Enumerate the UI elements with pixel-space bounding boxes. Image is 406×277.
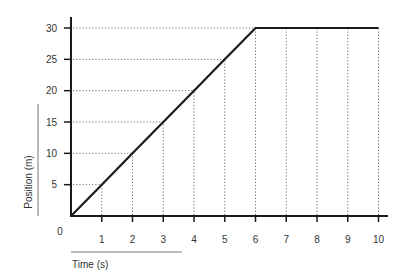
position-time-chart: 12345678910 51015202530 0 Position (m) T… <box>0 0 406 277</box>
y-tick-label-20: 20 <box>46 85 58 96</box>
y-axis-ticks: 51015202530 <box>46 23 71 191</box>
x-tick-label-6: 6 <box>253 234 259 245</box>
x-tick-label-7: 7 <box>283 234 289 245</box>
x-tick-label-10: 10 <box>373 234 385 245</box>
x-tick-label-4: 4 <box>191 234 197 245</box>
y-tick-label-15: 15 <box>46 117 58 128</box>
y-tick-label-25: 25 <box>46 54 58 65</box>
y-tick-label-10: 10 <box>46 148 58 159</box>
axes <box>70 17 388 217</box>
x-tick-label-8: 8 <box>314 234 320 245</box>
x-tick-label-5: 5 <box>222 234 228 245</box>
x-axis-title: Time (s) <box>72 259 108 270</box>
x-tick-label-3: 3 <box>160 234 166 245</box>
y-tick-label-5: 5 <box>51 179 57 190</box>
x-tick-label-1: 1 <box>99 234 105 245</box>
y-tick-label-30: 30 <box>46 23 58 34</box>
y-axis-title: Position (m) <box>23 155 34 208</box>
dotted-guide-lines <box>73 28 379 215</box>
origin-label: 0 <box>57 226 63 237</box>
x-tick-label-2: 2 <box>130 234 136 245</box>
x-tick-label-9: 9 <box>345 234 351 245</box>
x-axis-ticks: 12345678910 <box>99 216 385 245</box>
